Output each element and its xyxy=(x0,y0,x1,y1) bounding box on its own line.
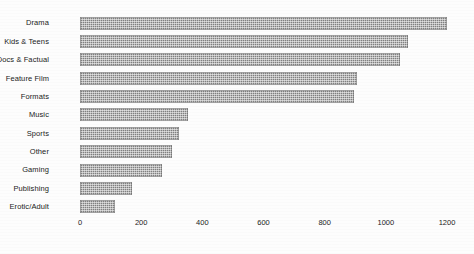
x-tick-400: 400 xyxy=(196,219,209,227)
bar-formats xyxy=(80,90,354,103)
x-tick-1000: 1000 xyxy=(377,219,394,227)
category-label-feature-film: Feature Film xyxy=(0,75,49,83)
category-label-gaming: Gaming xyxy=(0,166,49,174)
category-label-other: Other xyxy=(0,148,49,156)
x-tick-600: 600 xyxy=(257,219,270,227)
x-tick-200: 200 xyxy=(135,219,148,227)
x-tick-800: 800 xyxy=(318,219,331,227)
category-label-docs-and-factual: Docs & Factual xyxy=(0,56,49,64)
category-label-publishing: Publishing xyxy=(0,185,49,193)
bar-drama xyxy=(80,17,447,30)
plot-area: Drama Kids & Teens Docs & Factual Featur… xyxy=(80,14,447,216)
bar-rows: Drama Kids & Teens Docs & Factual Featur… xyxy=(80,14,447,216)
x-tick-1200: 1200 xyxy=(439,219,456,227)
bar-row: Publishing xyxy=(80,179,447,197)
bar-docs-and-factual xyxy=(80,53,400,66)
category-label-erotic-adult: Erotic/Adult xyxy=(0,203,49,211)
bar-row: Sports xyxy=(80,124,447,142)
category-label-music: Music xyxy=(0,111,49,119)
category-label-drama: Drama xyxy=(0,19,49,27)
bar-row: Feature Film xyxy=(80,69,447,87)
bar-other xyxy=(80,145,172,158)
category-label-formats: Formats xyxy=(0,93,49,101)
bar-row: Docs & Factual xyxy=(80,51,447,69)
category-label-kids-and-teens: Kids & Teens xyxy=(0,38,49,46)
x-tick-0: 0 xyxy=(78,219,82,227)
bar-sports xyxy=(80,127,179,140)
bar-row: Kids & Teens xyxy=(80,32,447,50)
bar-erotic-adult xyxy=(80,200,115,213)
category-label-sports: Sports xyxy=(0,130,49,138)
bar-chart: Drama Kids & Teens Docs & Factual Featur… xyxy=(0,0,474,254)
x-axis-line xyxy=(80,216,448,217)
x-axis-tick-labels: 0 200 400 600 800 1000 1200 xyxy=(80,219,447,233)
bar-gaming xyxy=(80,164,162,177)
bar-kids-and-teens xyxy=(80,35,408,48)
bar-feature-film xyxy=(80,72,357,85)
bar-row: Drama xyxy=(80,14,447,32)
bar-row: Music xyxy=(80,106,447,124)
bar-row: Other xyxy=(80,143,447,161)
bar-publishing xyxy=(80,182,132,195)
bar-row: Gaming xyxy=(80,161,447,179)
bar-row: Formats xyxy=(80,87,447,105)
bar-music xyxy=(80,108,188,121)
bar-row: Erotic/Adult xyxy=(80,198,447,216)
